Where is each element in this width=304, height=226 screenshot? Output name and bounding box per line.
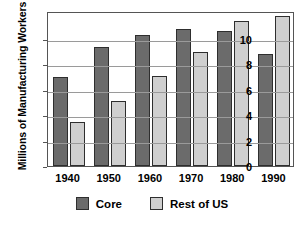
y-tick-mark [43, 65, 47, 66]
chart-legend: Core Rest of US [0, 197, 304, 210]
y-axis-title: Millions of Manufacturing Workers [16, 1, 28, 171]
bar-core-1960 [135, 35, 150, 166]
plot-area [47, 12, 294, 167]
y-tick-mark [43, 91, 47, 92]
core-swatch [76, 197, 89, 210]
y-tick-label: 6 [230, 85, 252, 97]
bar-rest-of-us-1970 [193, 52, 208, 166]
gridline [48, 41, 293, 42]
x-tick-label-1960: 1960 [127, 172, 173, 184]
gridline [48, 66, 293, 67]
rest-of-us-swatch [150, 197, 163, 210]
bar-core-1950 [94, 47, 109, 166]
y-tick-label: 10 [230, 34, 252, 46]
x-tick-label-1990: 1990 [250, 172, 296, 184]
bar-rest-of-us-1940 [70, 122, 85, 166]
y-tick-mark [43, 167, 47, 168]
legend-item-rest-of-us: Rest of US [150, 197, 228, 210]
x-tick-label-1940: 1940 [45, 172, 91, 184]
legend-label-rest-of-us: Rest of US [170, 198, 228, 210]
bar-core-1940 [53, 77, 68, 166]
y-tick-label: 8 [230, 59, 252, 71]
bar-rest-of-us-1950 [111, 101, 126, 166]
gridline [48, 143, 293, 144]
bar-rest-of-us-1960 [152, 76, 167, 166]
x-tick-label-1950: 1950 [86, 172, 132, 184]
x-tick-label-1970: 1970 [168, 172, 214, 184]
legend-item-core: Core [76, 197, 122, 210]
bar-chart: Millions of Manufacturing Workers 024681… [0, 0, 304, 226]
y-tick-mark [43, 142, 47, 143]
x-tick-label-1980: 1980 [209, 172, 255, 184]
y-tick-mark [43, 40, 47, 41]
bar-core-1970 [176, 29, 191, 166]
gridline [48, 117, 293, 118]
y-tick-label: 2 [230, 136, 252, 148]
bar-core-1990 [258, 54, 273, 166]
gridline [48, 92, 293, 93]
y-tick-label: 4 [230, 110, 252, 122]
y-tick-mark [43, 116, 47, 117]
legend-label-core: Core [96, 198, 122, 210]
